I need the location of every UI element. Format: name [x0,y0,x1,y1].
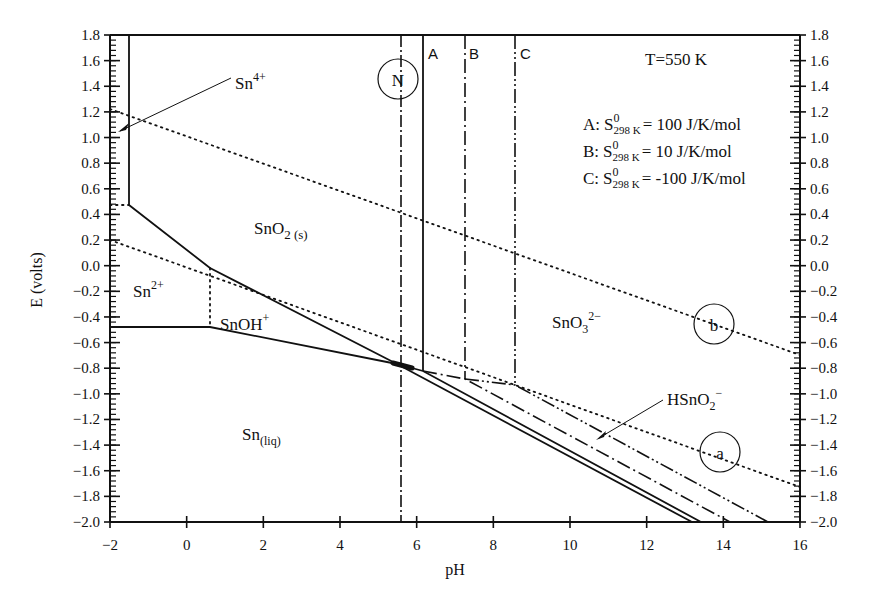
svg-text:0.2: 0.2 [810,232,829,248]
svg-text:−0.8: −0.8 [810,360,837,376]
svg-text:10: 10 [563,537,578,553]
hsno2-lower-boundary [397,364,692,522]
svg-text:−1.2: −1.2 [810,411,837,427]
legend-row-B: B:S0298 K= 10 J/K/mol [583,138,732,163]
svg-text:0.8: 0.8 [810,155,829,171]
region-sn4: Sn4+ [118,70,266,132]
svg-text:14: 14 [716,537,732,553]
svg-text:−0.2: −0.2 [810,283,837,299]
svg-text:1.0: 1.0 [810,130,829,146]
svg-text:1.2: 1.2 [81,104,100,120]
region-snoh: SnOH+ [220,311,270,334]
svg-text:0.8: 0.8 [81,155,100,171]
svg-text:−1.8: −1.8 [810,488,837,504]
svg-text:B:S0298 K= 10 J/K/mol: B:S0298 K= 10 J/K/mol [583,138,732,163]
svg-text:0.6: 0.6 [810,181,829,197]
svg-text:Sn4+: Sn4+ [235,70,266,93]
legend-row-A: A:S0298 K= 100 J/K/mol [583,111,741,136]
region-sn-liq: Sn(liq) [242,425,281,448]
svg-text:−1.2: −1.2 [73,411,100,427]
line-B [423,35,730,522]
entropy-legend: A:S0298 K= 100 J/K/mol B:S0298 K= 10 J/K… [583,111,746,190]
svg-text:−0.8: −0.8 [73,360,100,376]
svg-text:8: 8 [490,537,498,553]
svg-text:−0.6: −0.6 [810,335,838,351]
water-line-b-label: b [710,316,719,335]
svg-text:12: 12 [639,537,654,553]
svg-text:1.8: 1.8 [810,27,829,43]
triple-point-marker [393,363,412,368]
svg-text:−1.0: −1.0 [810,386,837,402]
svg-text:−2: −2 [102,537,118,553]
sn4-pointer [120,78,231,131]
y-axis-right-labels: 1.81.61.41.21.00.80.60.40.20.0−0.2−0.4−0… [810,27,838,530]
svg-text:−1.0: −1.0 [73,386,100,402]
svg-text:1.8: 1.8 [81,27,100,43]
svg-text:6: 6 [413,537,421,553]
region-sno2: SnO2 (s) [254,219,308,242]
svg-text:−0.4: −0.4 [73,309,101,325]
svg-text:1.2: 1.2 [810,104,829,120]
neutral-label: N [392,71,404,90]
y-axis-title: E (volts) [28,252,46,308]
svg-text:−1.6: −1.6 [810,463,838,479]
svg-text:−1.6: −1.6 [73,463,101,479]
water-lines [110,109,800,487]
region-sno3: SnO32− [552,309,601,336]
water-line-a-label: a [716,444,724,463]
svg-text:−1.4: −1.4 [810,437,838,453]
svg-text:0.0: 0.0 [81,258,100,274]
region-hsno2: HSnO2− [596,386,723,440]
svg-text:1.6: 1.6 [81,53,100,69]
line-label-C: C [520,45,531,62]
line-label-B: B [469,45,479,62]
svg-text:A:S0298 K= 100 J/K/mol: A:S0298 K= 100 J/K/mol [583,111,741,136]
svg-text:2: 2 [260,537,268,553]
svg-text:−1.4: −1.4 [73,437,101,453]
svg-text:HSnO2−: HSnO2− [667,386,723,413]
svg-text:−0.6: −0.6 [73,335,101,351]
x-axis-labels: −20246810121416 [102,537,808,553]
svg-text:−2.0: −2.0 [73,514,100,530]
svg-text:0.4: 0.4 [81,206,100,222]
svg-text:0.0: 0.0 [810,258,829,274]
svg-text:0.2: 0.2 [81,232,100,248]
svg-text:0.4: 0.4 [810,206,829,222]
svg-text:0: 0 [183,537,191,553]
svg-text:1.6: 1.6 [810,53,829,69]
x-axis-title: pH [445,561,465,579]
pourbaix-chart: 1.81.61.41.21.00.80.60.40.20.0−0.2−0.4−0… [0,0,873,608]
legend-row-C: C:S0298 K= -100 J/K/mol [583,165,746,190]
solid-boundaries [110,35,701,522]
svg-text:1.4: 1.4 [810,78,829,94]
svg-text:1.0: 1.0 [81,130,100,146]
svg-text:16: 16 [793,537,809,553]
temperature-label: T=550 K [645,50,708,69]
svg-text:C:S0298 K= -100 J/K/mol: C:S0298 K= -100 J/K/mol [583,165,746,190]
water-line-a [110,240,800,487]
svg-text:−1.8: −1.8 [73,488,100,504]
region-sn2: Sn2+ [133,278,164,301]
svg-text:−0.2: −0.2 [73,283,100,299]
line-label-A: A [428,45,438,62]
svg-text:4: 4 [336,537,344,553]
svg-text:1.4: 1.4 [81,78,100,94]
plot-frame [110,35,800,522]
svg-text:0.6: 0.6 [81,181,100,197]
svg-text:−0.4: −0.4 [810,309,838,325]
svg-text:−2.0: −2.0 [810,514,837,530]
y-axis-left-labels: 1.81.61.41.21.00.80.60.40.20.0−0.2−0.4−0… [73,27,101,530]
